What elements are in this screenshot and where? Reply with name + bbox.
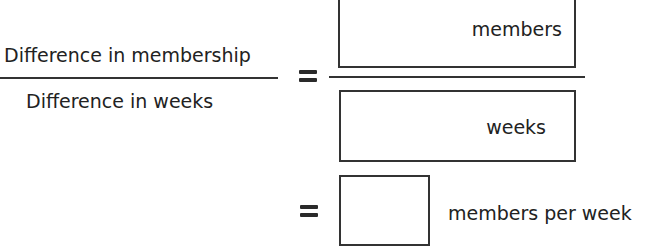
right-fraction-bar [329, 76, 585, 78]
members-difference-box[interactable]: members [338, 0, 576, 68]
members-unit-label: members [472, 20, 562, 39]
left-denominator-text: Difference in weeks [26, 92, 213, 111]
equals-sign [299, 70, 317, 86]
weeks-difference-box[interactable]: weeks [339, 90, 576, 162]
rate-answer-box[interactable] [339, 175, 430, 246]
weeks-unit-label: weeks [486, 118, 546, 137]
rate-unit-label: members per week [448, 204, 632, 223]
equals-sign-result [300, 205, 318, 221]
left-fraction-bar [0, 77, 278, 79]
left-numerator-text: Difference in membership [4, 46, 251, 65]
